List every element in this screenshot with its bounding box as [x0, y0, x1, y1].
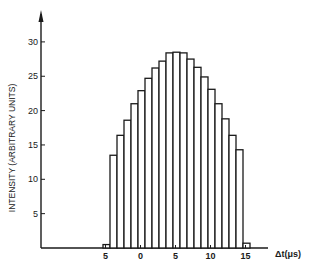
histogram-bar — [117, 135, 124, 248]
x-tick-label: 5 — [173, 251, 178, 261]
histogram-bar — [152, 68, 159, 248]
y-ticks: 51015202530 — [28, 37, 45, 219]
histogram-bar — [187, 59, 194, 248]
y-axis-label: INTENSITY (ARBITRARY UNITS) — [7, 84, 17, 213]
histogram-bar — [159, 61, 166, 248]
x-tick-label: 5 — [103, 251, 108, 261]
histogram-bar — [103, 245, 110, 248]
histogram-bar — [166, 53, 173, 248]
histogram-bar — [208, 89, 215, 248]
y-tick-label: 10 — [28, 174, 38, 184]
histogram-bar — [124, 120, 131, 248]
x-tick-label: 15 — [240, 251, 250, 261]
histogram-bar — [194, 67, 201, 248]
histogram-chart: 51015202530 5051015 INTENSITY (ARBITRARY… — [0, 0, 336, 272]
x-tick-label: 10 — [205, 251, 215, 261]
histogram-bar — [180, 53, 187, 248]
histogram-bar — [131, 104, 138, 248]
histogram-bar — [201, 77, 208, 248]
histogram-bar — [138, 91, 145, 248]
y-axis-arrow-icon — [39, 10, 44, 22]
x-tick-label: 0 — [138, 251, 143, 261]
x-axis-label: Δt(μs) — [275, 249, 301, 259]
bars — [103, 52, 250, 248]
y-tick-label: 25 — [28, 71, 38, 81]
histogram-bar — [236, 150, 243, 248]
histogram-bar — [110, 155, 117, 248]
histogram-bar — [215, 104, 222, 248]
histogram-bar — [173, 52, 180, 248]
y-tick-label: 30 — [28, 37, 38, 47]
y-tick-label: 5 — [33, 209, 38, 219]
histogram-bar — [145, 78, 152, 248]
histogram-bar — [229, 135, 236, 248]
histogram-bar — [243, 243, 250, 248]
histogram-bar — [222, 119, 229, 248]
y-tick-label: 15 — [28, 140, 38, 150]
y-tick-label: 20 — [28, 106, 38, 116]
